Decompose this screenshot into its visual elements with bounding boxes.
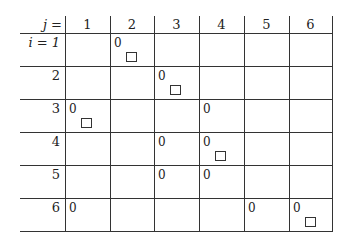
row-label: 2: [22, 68, 60, 83]
cell-zero-entry: 0: [158, 69, 166, 83]
cell-zero-entry: 0: [114, 36, 122, 50]
column-index-label: j =: [22, 17, 62, 32]
cell-zero-entry: 0: [158, 135, 166, 149]
grid-horizontal-line: [20, 198, 333, 199]
column-header: 1: [65, 17, 110, 32]
grid-horizontal-line: [20, 66, 333, 67]
cell-zero-entry: 0: [69, 102, 77, 116]
cell-zero-entry: 0: [158, 168, 166, 182]
cell-box-marker: [215, 151, 226, 161]
cell-zero-entry: 0: [248, 201, 256, 215]
cell-zero-entry: 0: [203, 168, 211, 182]
cell-box-marker: [81, 118, 92, 128]
grid-horizontal-line: [20, 165, 333, 166]
row-label: 5: [22, 167, 60, 182]
cell-zero-entry: 0: [203, 102, 211, 116]
grid-horizontal-line: [20, 99, 333, 100]
row-label: 6: [22, 200, 60, 215]
cell-box-marker: [305, 217, 316, 227]
cell-zero-entry: 0: [203, 135, 211, 149]
column-header: 4: [199, 17, 244, 32]
column-header: 6: [289, 17, 332, 32]
cell-zero-entry: 0: [293, 201, 301, 215]
row-label: 4: [22, 134, 60, 149]
column-header: 2: [110, 17, 154, 32]
grid-horizontal-line: [20, 132, 333, 133]
row-label: 3: [22, 101, 60, 116]
grid-horizontal-line: [20, 33, 333, 34]
cell-box-marker: [126, 52, 137, 62]
cell-zero-entry: 0: [69, 201, 77, 215]
grid-horizontal-line: [20, 231, 333, 232]
column-header: 3: [154, 17, 199, 32]
column-header: 5: [244, 17, 289, 32]
row-label: i = 1: [22, 35, 60, 50]
cell-box-marker: [170, 85, 181, 95]
